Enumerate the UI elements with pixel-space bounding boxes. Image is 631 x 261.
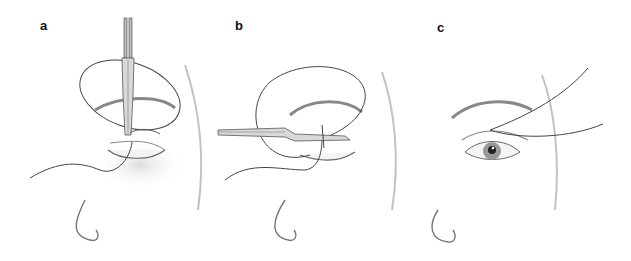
panel-b: b <box>210 0 420 261</box>
illustration-b <box>210 0 420 261</box>
illustration-c <box>420 0 631 261</box>
illustration-a <box>0 0 210 261</box>
panel-c: c <box>420 0 631 261</box>
panel-a: a <box>0 0 210 261</box>
